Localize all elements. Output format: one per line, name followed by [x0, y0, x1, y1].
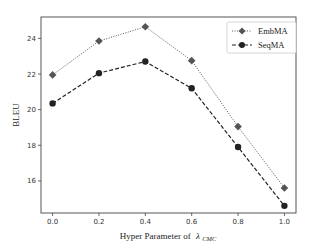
data-point: [235, 144, 241, 150]
x-tick-label: 0.2: [93, 218, 104, 226]
y-axis-ticks: 1618202224: [27, 35, 41, 186]
data-point: [188, 85, 194, 91]
x-tick-label: 1.0: [279, 218, 290, 226]
x-tick-label: 0.0: [47, 218, 58, 226]
x-tick-label: 0.6: [186, 218, 198, 226]
x-axis-label-text: Hyper Parameter of: [120, 231, 191, 241]
legend: EmbMA SeqMA: [227, 22, 296, 53]
x-axis-label-subscript: CMC: [202, 235, 217, 242]
x-tick-label: 0.4: [140, 218, 152, 226]
x-tick-label: 0.8: [232, 218, 243, 226]
y-tick-label: 16: [27, 177, 36, 185]
x-axis-label: Hyper Parameter of λ CMC: [120, 231, 217, 242]
y-axis-label: BLEU: [11, 103, 21, 127]
circle-marker-icon: [239, 42, 245, 48]
legend-label-seqma: SeqMA: [258, 40, 285, 50]
legend-label-embma: EmbMA: [258, 26, 289, 36]
data-point: [142, 58, 148, 64]
y-tick-label: 24: [27, 35, 36, 43]
x-axis-ticks: 0.00.20.40.60.81.0: [47, 213, 290, 226]
data-point: [49, 100, 55, 106]
y-tick-label: 18: [27, 142, 36, 150]
y-tick-label: 20: [27, 106, 36, 114]
data-point: [96, 70, 102, 76]
y-tick-label: 22: [27, 71, 36, 79]
data-point: [281, 203, 287, 209]
x-axis-label-symbol: λ: [195, 231, 200, 241]
line-chart: 0.00.20.40.60.81.0 1618202224 BLEU Hyper…: [0, 0, 312, 248]
